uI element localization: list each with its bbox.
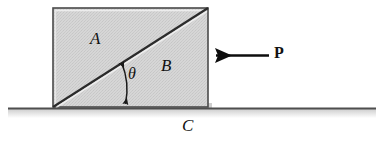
mechanics-figure: A B C P θ: [0, 0, 385, 151]
label-angle-theta: θ: [128, 66, 136, 82]
label-force-P: P: [274, 45, 284, 61]
label-wedge-A: A: [90, 30, 100, 47]
label-wedge-B: B: [161, 57, 171, 74]
label-ground-surface-C: C: [182, 117, 193, 134]
